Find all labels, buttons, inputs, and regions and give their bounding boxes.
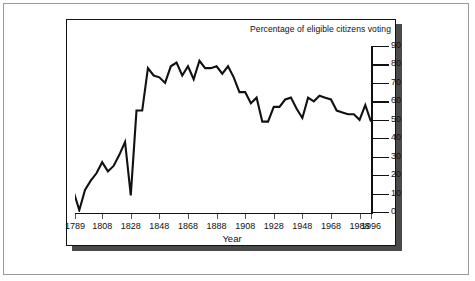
x-axis-tick [371,214,372,219]
y-axis-tick-label: 10 [391,189,409,198]
y-axis-line [371,46,373,214]
y-axis-tick [371,120,389,121]
chart-title: Percentage of eligible citizens voting [250,24,391,34]
x-axis-tick-label: 1848 [149,221,169,231]
x-axis-tick [102,214,103,219]
x-axis-tick-label: 1789 [65,221,85,231]
y-axis-tick [371,194,389,195]
x-axis-tick [131,214,132,219]
x-axis-tick [188,214,189,219]
data-line-svg [75,46,371,212]
y-axis-tick-label: 60 [391,96,409,105]
y-axis-tick-label: 50 [391,115,409,124]
x-axis-tick-label: 1908 [235,221,255,231]
x-axis-line [75,213,373,214]
x-axis-tick-label: 1948 [292,221,312,231]
y-axis-tick [371,64,389,65]
x-axis-tick-label: 1928 [264,221,284,231]
y-axis-tick-label: 80 [391,59,409,68]
y-axis-tick-label: 40 [391,133,409,142]
x-axis-tick [75,214,76,219]
x-axis-tick [217,214,218,219]
y-axis-tick [371,46,389,47]
x-axis-tick-label: 1968 [321,221,341,231]
series-line-voting-percentage [75,61,371,210]
y-axis-tick-label: 70 [391,78,409,87]
y-axis-tick-label: 20 [391,170,409,179]
x-axis-tick [360,214,361,219]
x-axis-tick-label: 1888 [207,221,227,231]
x-axis-tick-label: 1808 [92,221,112,231]
y-axis-tick [371,138,389,139]
x-axis-tick [159,214,160,219]
x-axis-title: Year [67,233,397,244]
y-axis-tick [371,83,389,84]
x-axis-tick [245,214,246,219]
chart-page: Percentage of eligible citizens voting 9… [0,0,475,281]
y-axis-tick [371,175,389,176]
figure-panel: Percentage of eligible citizens voting 9… [66,19,396,246]
y-axis-tick [371,212,389,213]
x-axis-tick-label: 1868 [178,221,198,231]
x-axis-tick-label: 1996 [361,221,381,231]
x-axis-tick [302,214,303,219]
x-axis-tick [274,214,275,219]
y-axis-tick [371,101,389,102]
x-axis-tick-label: 1828 [121,221,141,231]
y-axis-tick-label: 0 [391,207,409,216]
y-axis-tick-label: 90 [391,41,409,50]
plot-area [75,46,371,212]
y-axis-tick [371,157,389,158]
x-axis-tick [331,214,332,219]
y-axis-tick-label: 30 [391,152,409,161]
